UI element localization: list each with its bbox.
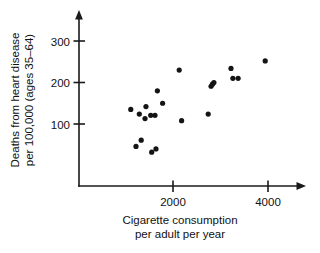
- y-tick-label-100: 100: [51, 119, 70, 131]
- data-point: [155, 88, 160, 93]
- y-axis-title-line2: per 100,000 (ages 35–64): [23, 34, 35, 167]
- data-point: [230, 76, 235, 81]
- data-point: [137, 111, 142, 116]
- data-point: [228, 66, 233, 71]
- x-axis-title-line1: Cigarette consumption: [122, 214, 237, 226]
- data-point: [177, 67, 182, 72]
- data-point: [206, 111, 211, 116]
- data-point: [211, 80, 216, 85]
- data-point: [153, 146, 158, 151]
- data-point: [160, 101, 165, 106]
- data-point: [133, 144, 138, 149]
- y-axis-title-line1: Deaths from heart disease: [9, 33, 21, 168]
- scatter-plot: 100 200 300 2000 4000 Cigarette consumpt…: [0, 0, 320, 253]
- y-tick-label-200: 200: [51, 77, 70, 89]
- chart-page: 100 200 300 2000 4000 Cigarette consumpt…: [0, 0, 320, 253]
- x-tick-label-2000: 2000: [160, 196, 186, 208]
- data-points-layer: [128, 58, 268, 154]
- x-axis-title-line2: per adult per year: [135, 228, 225, 240]
- data-point: [152, 113, 157, 118]
- data-point: [179, 118, 184, 123]
- y-tick-label-300: 300: [51, 36, 70, 48]
- y-axis-arrow-icon: [75, 10, 83, 20]
- data-point: [142, 116, 147, 121]
- data-point: [139, 138, 144, 143]
- data-point: [149, 150, 154, 155]
- data-point: [263, 58, 268, 63]
- data-point: [143, 104, 148, 109]
- data-point: [236, 76, 241, 81]
- x-axis-arrow-icon: [297, 182, 307, 190]
- x-tick-label-4000: 4000: [255, 196, 281, 208]
- data-point: [128, 107, 133, 112]
